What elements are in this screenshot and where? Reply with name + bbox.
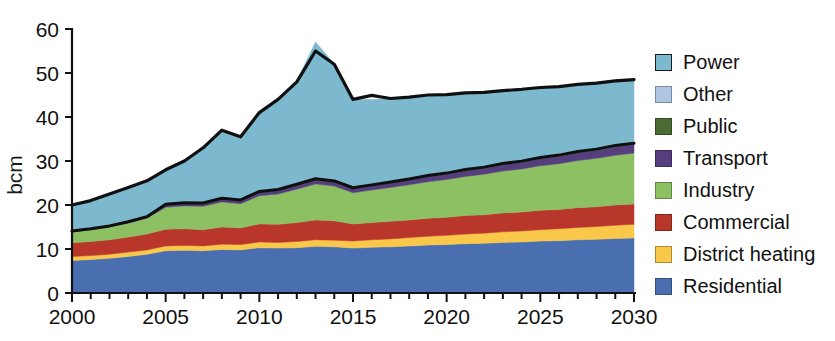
x-tick-label: 2010 <box>236 305 283 328</box>
y-tick-label: 60 <box>36 18 59 41</box>
x-tick-label: 2025 <box>517 305 564 328</box>
legend-item-industry[interactable]: Industry <box>655 174 835 206</box>
x-tick-label: 2015 <box>330 305 377 328</box>
legend-item-power[interactable]: Power <box>655 46 835 78</box>
y-tick-labels: 0102030405060 <box>36 18 59 305</box>
legend-swatch-icon <box>655 182 672 199</box>
y-tick-label: 40 <box>36 106 59 129</box>
x-tick-label: 2020 <box>423 305 470 328</box>
legend-item-label: Residential <box>683 276 782 296</box>
y-tick-label: 30 <box>36 150 59 173</box>
x-tick-label: 2000 <box>49 305 96 328</box>
legend-swatch-icon <box>655 118 672 135</box>
legend-item-label: District heating <box>683 244 815 264</box>
y-axis-label: bcm <box>3 155 26 195</box>
y-tick-label: 50 <box>36 62 59 85</box>
legend-item-other[interactable]: Other <box>655 78 835 110</box>
legend-swatch-icon <box>655 278 672 295</box>
legend-item-label: Other <box>683 84 733 104</box>
legend-item-residential[interactable]: Residential <box>655 270 835 302</box>
legend-swatch-icon <box>655 246 672 263</box>
legend-swatch-icon <box>655 54 672 71</box>
legend-swatch-icon <box>655 150 672 167</box>
legend-item-label: Power <box>683 52 740 72</box>
legend-item-label: Transport <box>683 148 768 168</box>
y-tick-label: 20 <box>36 194 59 217</box>
legend-item-district-heating[interactable]: District heating <box>655 238 835 270</box>
legend-swatch-icon <box>655 86 672 103</box>
y-tick-label: 10 <box>36 238 59 261</box>
x-tick-label: 2030 <box>611 305 658 328</box>
legend-item-label: Industry <box>683 180 754 200</box>
chart-legend: PowerOtherPublicTransportIndustryCommerc… <box>655 46 835 302</box>
legend-item-label: Commercial <box>683 212 790 232</box>
legend-swatch-icon <box>655 214 672 231</box>
y-tick-label: 0 <box>47 282 59 305</box>
legend-item-public[interactable]: Public <box>655 110 835 142</box>
x-tick-label: 2005 <box>142 305 189 328</box>
chart-figure: 0102030405060 20002005201020152020202520… <box>0 0 835 341</box>
legend-item-commercial[interactable]: Commercial <box>655 206 835 238</box>
legend-item-transport[interactable]: Transport <box>655 142 835 174</box>
x-tick-labels: 2000200520102015202020252030 <box>49 305 658 328</box>
legend-item-label: Public <box>683 116 737 136</box>
area-series-group <box>72 42 634 293</box>
